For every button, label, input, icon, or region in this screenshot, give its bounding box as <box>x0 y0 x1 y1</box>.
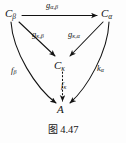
node-c-kappa: Cκ <box>54 60 65 72</box>
node-a-base: A <box>57 103 64 115</box>
edge-label-f-beta-subscript: β <box>13 69 16 75</box>
edge-label-f-beta: fβ <box>11 66 16 75</box>
node-c-alpha-subscript: α <box>108 12 112 21</box>
edge-label-k-alpha: kα <box>97 64 104 73</box>
edge-label-f-kappa: fκ <box>61 81 66 90</box>
edge-label-g-kappa-alpha: gκ,α <box>68 30 80 39</box>
edge-label-g-kappa-beta-subscript: κ,β <box>36 33 43 39</box>
figure-caption-number: 4.47 <box>60 124 78 135</box>
edge-label-g-kappa-beta: gκ,β <box>32 30 44 39</box>
edge-label-g-alpha-beta-subscript: α,β <box>50 4 58 10</box>
node-c-beta-subscript: β <box>12 12 16 21</box>
node-a: A <box>57 104 64 115</box>
commutative-diagram: Cβ Cα Cκ A gα,β gκ,β gκ,α fβ kα fκ <box>0 0 126 122</box>
edge-label-g-kappa-alpha-subscript: κ,α <box>72 33 80 39</box>
figure-container: Cβ Cα Cκ A gα,β gκ,β gκ,α fβ kα fκ <box>0 0 126 143</box>
edge-label-k-alpha-subscript: α <box>101 67 104 73</box>
node-c-beta: Cβ <box>5 8 16 20</box>
figure-caption-label: 图 <box>48 124 58 135</box>
node-c-alpha: Cα <box>101 8 112 20</box>
edge-label-f-kappa-subscript: κ <box>63 84 66 90</box>
figure-caption: 图 4.47 <box>0 124 126 136</box>
node-c-kappa-subscript: κ <box>61 64 65 73</box>
edge-label-g-alpha-beta: gα,β <box>46 1 58 10</box>
